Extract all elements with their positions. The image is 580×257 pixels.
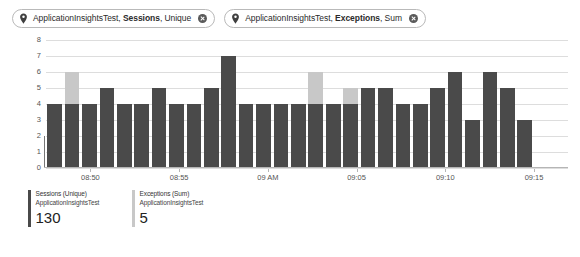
- chart-bar[interactable]: [221, 40, 236, 168]
- chip-metric-text: Sessions: [123, 13, 160, 23]
- chart-bar[interactable]: [378, 40, 393, 168]
- chart-bar[interactable]: [465, 40, 480, 168]
- bar-segment: [448, 72, 463, 168]
- bar-segment: [500, 88, 515, 168]
- chart-bar[interactable]: [239, 40, 254, 168]
- chart-bar[interactable]: [517, 40, 532, 168]
- bar-segment: [47, 104, 62, 168]
- bar-segment: [430, 88, 445, 168]
- chart-bar[interactable]: [256, 40, 271, 168]
- chart-bar[interactable]: [483, 40, 498, 168]
- chart-bar[interactable]: [535, 40, 550, 168]
- legend-metric-name: Sessions (Unique): [36, 190, 100, 199]
- bar-segment: [343, 88, 358, 104]
- filter-chip-sessions-label: ApplicationInsightsTest, Sessions, Uniqu…: [33, 14, 191, 23]
- x-tick-mark: [90, 169, 91, 172]
- location-pin-icon: [19, 13, 28, 24]
- x-tick-mark: [445, 169, 446, 172]
- x-tick-label: 09:05: [347, 174, 366, 182]
- chart-bar[interactable]: [343, 40, 358, 168]
- chart-bar[interactable]: [552, 40, 567, 168]
- chart-bar[interactable]: [117, 40, 132, 168]
- filter-chip-exceptions-label: ApplicationInsightsTest, Exceptions, Sum: [245, 14, 402, 23]
- legend-item[interactable]: Exceptions (Sum)ApplicationInsightsTest5: [132, 190, 224, 227]
- bar-segment: [65, 104, 80, 168]
- chart-bar[interactable]: [65, 40, 80, 168]
- x-tick-label: 09 AM: [257, 174, 278, 182]
- bar-segment: [239, 104, 254, 168]
- chart-bar[interactable]: [187, 40, 202, 168]
- chart-bar[interactable]: [430, 40, 445, 168]
- y-tick-label: 5: [37, 84, 41, 92]
- chart-x-tick-labels: 08:5008:5509 AM09:0509:1009:15: [46, 169, 568, 184]
- y-tick-label: 6: [37, 68, 41, 76]
- chart-bar[interactable]: [134, 40, 149, 168]
- x-tick-mark: [179, 169, 180, 172]
- y-tick-label: 1: [37, 148, 41, 156]
- chart-bar[interactable]: [82, 40, 97, 168]
- chip-metric-text: Exceptions: [335, 13, 380, 23]
- bar-segment: [291, 104, 306, 168]
- x-tick-label: 08:50: [81, 174, 100, 182]
- chip-resource-text: ApplicationInsightsTest,: [245, 13, 335, 23]
- chart-bar[interactable]: [308, 40, 323, 168]
- legend-resource-name: ApplicationInsightsTest: [36, 199, 100, 208]
- chart-bar[interactable]: [100, 40, 115, 168]
- chip-aggregation-text: , Unique: [160, 13, 191, 23]
- legend-item[interactable]: Sessions (Unique)ApplicationInsightsTest…: [28, 190, 120, 227]
- chart-plot-area: 012345678: [46, 40, 568, 168]
- bar-segment: [326, 104, 341, 168]
- bar-segment: [483, 72, 498, 168]
- bar-segment: [117, 104, 132, 168]
- legend-metric-name: Exceptions (Sum): [140, 190, 204, 199]
- x-tick-mark: [268, 169, 269, 172]
- chart-bar[interactable]: [500, 40, 515, 168]
- close-icon[interactable]: [198, 14, 207, 23]
- bar-segment: [221, 56, 236, 168]
- chart-bar[interactable]: [448, 40, 463, 168]
- close-icon[interactable]: [409, 14, 418, 23]
- chart-y-axis: [44, 136, 45, 168]
- x-tick-mark: [357, 169, 358, 172]
- bar-segment: [517, 120, 532, 168]
- legend-metric-value: 130: [36, 209, 100, 228]
- y-tick-label: 3: [37, 116, 41, 124]
- legend-color-swatch: [132, 190, 135, 227]
- chip-aggregation-text: , Sum: [380, 13, 402, 23]
- y-tick-label: 8: [37, 36, 41, 44]
- bar-segment: [465, 120, 480, 168]
- metrics-chart: 012345678 08:5008:5509 AM09:0509:1009:15: [6, 34, 574, 184]
- bar-segment: [308, 72, 323, 104]
- chart-bar[interactable]: [396, 40, 411, 168]
- chart-x-axis: [44, 167, 568, 168]
- bar-segment: [361, 88, 376, 168]
- legend-metric-value: 5: [140, 209, 204, 228]
- legend-resource-name: ApplicationInsightsTest: [140, 199, 204, 208]
- chart-legend: Sessions (Unique)ApplicationInsightsTest…: [0, 184, 580, 227]
- chart-bar[interactable]: [291, 40, 306, 168]
- chart-bar[interactable]: [169, 40, 184, 168]
- bar-segment: [396, 104, 411, 168]
- bar-segment: [82, 104, 97, 168]
- filter-chip-sessions[interactable]: ApplicationInsightsTest, Sessions, Uniqu…: [12, 9, 215, 28]
- filter-chip-exceptions[interactable]: ApplicationInsightsTest, Exceptions, Sum: [224, 9, 426, 28]
- bar-segment: [274, 104, 289, 168]
- bar-segment: [169, 104, 184, 168]
- chart-bar[interactable]: [274, 40, 289, 168]
- bar-segment: [65, 72, 80, 104]
- x-tick-mark: [534, 169, 535, 172]
- chart-bar[interactable]: [204, 40, 219, 168]
- chart-bar[interactable]: [47, 40, 62, 168]
- y-tick-label: 0: [37, 164, 41, 172]
- chart-bar[interactable]: [413, 40, 428, 168]
- bar-segment: [256, 104, 271, 168]
- chart-bar[interactable]: [152, 40, 167, 168]
- bar-segment: [134, 104, 149, 168]
- chip-resource-text: ApplicationInsightsTest,: [33, 13, 123, 23]
- x-tick-label: 09:15: [525, 174, 544, 182]
- x-tick-label: 08:55: [170, 174, 189, 182]
- chart-bar[interactable]: [361, 40, 376, 168]
- y-tick-label: 7: [37, 52, 41, 60]
- x-tick-label: 09:10: [436, 174, 455, 182]
- chart-bar[interactable]: [326, 40, 341, 168]
